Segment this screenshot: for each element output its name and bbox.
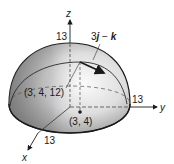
vector-minus: −	[99, 31, 110, 42]
vector-k: k	[111, 31, 117, 42]
z-axis-label: z	[65, 8, 71, 19]
y-radius-label: 13	[132, 94, 144, 105]
x-axis-label: x	[21, 152, 28, 163]
y-axis-label: y	[159, 102, 166, 113]
base-point-dot	[78, 110, 82, 114]
vector-label: 3j − k	[91, 31, 117, 42]
base-point-label: (3, 4)	[69, 116, 92, 127]
hemisphere-diagram: z y x 13 13 13 (3, 4, 12) (3, 4) 3j − k	[0, 0, 174, 164]
z-radius-label: 13	[56, 31, 68, 42]
diagram-canvas: z y x 13 13 13 (3, 4, 12) (3, 4) 3j − k	[0, 0, 174, 164]
surface-point-label: (3, 4, 12)	[24, 87, 64, 98]
x-radius-label: 13	[44, 135, 56, 146]
x-axis	[28, 133, 38, 150]
